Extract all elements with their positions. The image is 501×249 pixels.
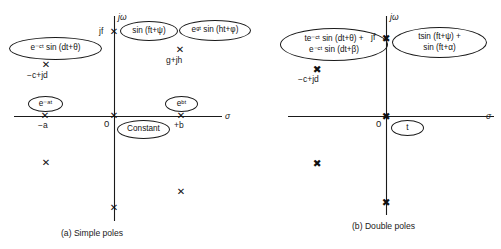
pole-marker-neg-c-minus-jd: ✕ <box>42 158 50 168</box>
bubble-ramp-t: t <box>391 120 424 136</box>
bubble-sine: sin (ft+ψ) <box>120 21 178 41</box>
bubble-t-exp-decay-sine-sum-line2: e⁻ᶜᵗ sin (dt+β) <box>304 45 363 55</box>
bubble-exp-growth: eᵇᵗ <box>165 96 198 112</box>
bubble-exp-growth-sine: eᵍᵗ sin (ht+φ) <box>179 20 251 41</box>
panel-b-real-axis-label: σ <box>486 112 491 121</box>
pole-marker-origin: ✕ <box>110 111 118 121</box>
panel-a-label-pos-b: +b <box>174 121 184 130</box>
panel-b-origin-label: 0 <box>376 119 381 129</box>
bubble-constant: Constant <box>117 120 170 139</box>
bubble-t-exp-decay-sine-sum-line1: te⁻ᶜᵗ sin (dt+θ) + <box>304 34 363 44</box>
panel-a-caption: (a) Simple poles <box>61 228 123 238</box>
bubble-exp-decay-sine-text: e⁻ᶜᵗ sin (dt+θ) <box>31 43 81 53</box>
panel-b-caption: (b) Double poles <box>352 221 415 231</box>
bubble-exp-decay-sine: e⁻ᶜᵗ sin (dt+θ) <box>9 37 102 60</box>
panel-b-label-neg-c-plus-jd: −c+jd <box>298 75 319 84</box>
panel-a-origin-label: 0 <box>104 119 109 129</box>
panel-a-label-neg-a: −a <box>38 121 48 130</box>
double-pole-marker-neg-c-minus-jd: ✖ <box>313 158 321 169</box>
bubble-t-sine-sum-line2: sin (ft+α) <box>418 43 461 53</box>
bubble-t-exp-decay-sine-sum: te⁻ᶜᵗ sin (dt+θ) + e⁻ᶜᵗ sin (dt+β) <box>280 28 388 61</box>
pole-marker-g-minus-jh: ✕ <box>177 187 185 197</box>
pole-zero-figure: jω σ 0 jf ✕ ✕ ✕ ✕ ✕ ✕ ✕ ✕ ✕ −a +b −c+jd … <box>0 0 501 249</box>
bubble-exp-decay-text: e⁻ᵃᵗ <box>39 99 52 109</box>
bubble-ramp-t-text: t <box>406 123 408 133</box>
bubble-t-sine-sum: tsin (ft+ψ) + sin (ft+α) <box>392 27 487 58</box>
bubble-exp-decay: e⁻ᵃᵗ <box>28 96 63 112</box>
bubble-exp-growth-sine-text: eᵍᵗ sin (ht+φ) <box>192 25 239 35</box>
bubble-exp-growth-text: eᵇᵗ <box>177 99 186 109</box>
pole-marker-g-plus-jh: ✕ <box>176 45 184 55</box>
panel-a-imag-axis-label: jω <box>118 13 127 22</box>
double-pole-marker-neg-jf: ✖ <box>382 197 390 208</box>
pole-marker-neg-jf: ✕ <box>110 203 118 213</box>
bubble-t-sine-sum-line1: tsin (ft+ψ) + <box>418 32 461 42</box>
double-pole-marker-neg-c-plus-jd: ✖ <box>313 64 321 75</box>
double-pole-marker-origin: ✖ <box>382 111 390 122</box>
pole-marker-jf: ✕ <box>110 27 118 37</box>
bubble-constant-text: Constant <box>127 124 160 134</box>
panel-a-label-g-plus-jh: g+jh <box>166 56 182 65</box>
panel-a-real-axis-label: σ <box>225 112 230 121</box>
bubble-sine-text: sin (ft+ψ) <box>132 26 165 36</box>
panel-a-jf-label: jf <box>99 27 103 36</box>
panel-b-imag-axis-label: jω <box>390 13 399 22</box>
pole-marker-neg-c-plus-jd: ✕ <box>42 60 50 70</box>
panel-a-label-neg-c-plus-jd: −c+jd <box>27 71 48 80</box>
